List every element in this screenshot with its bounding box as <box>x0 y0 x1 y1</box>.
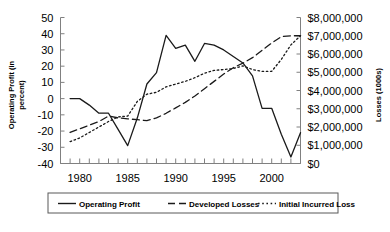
y-axis-right-tick-label: $7,000,000 <box>308 30 363 42</box>
legend-item-label: Developed Losses <box>189 200 260 209</box>
series-paths <box>70 35 300 157</box>
y-axis-left-tick-label: -10 <box>38 109 54 121</box>
y-axis-left-tick-labels: 50403020100-10-20-30-40 <box>38 12 54 170</box>
series-line-operating-profit <box>70 35 300 157</box>
y-axis-left-title: Operating Profit (in percent) <box>7 60 26 129</box>
y-axis-right-tick-label: $3,000,000 <box>308 103 363 115</box>
line-chart: 19801985199019952000 50403020100-10-20-3… <box>0 0 390 232</box>
y-axis-right-tick-label: $2,000,000 <box>308 121 363 133</box>
chart-legend: Operating ProfitDeveloped LossesInitial … <box>48 193 356 213</box>
legend-item-label: Initial Incurred Loss <box>279 200 356 209</box>
chart-container: 19801985199019952000 50403020100-10-20-3… <box>0 0 390 232</box>
y-axis-right-tick-label: $1,000,000 <box>308 139 363 151</box>
y-axis-left-tick-label: 0 <box>47 93 53 105</box>
y-axis-right-tick-label: $5,000,000 <box>308 66 363 78</box>
y-axis-left-ticks <box>61 18 65 164</box>
y-axis-left-tick-label: 30 <box>41 44 53 56</box>
x-axis-ticks <box>61 159 301 164</box>
y-axis-left-tick-label: 40 <box>41 28 53 40</box>
series-line-initial-incurred-loss <box>70 36 300 142</box>
y-axis-left-title-line1: Operating Profit (in <box>7 60 16 129</box>
y-axis-right-tick-labels: $8,000,000$7,000,000$6,000,000$5,000,000… <box>308 12 363 170</box>
y-axis-right-tick-label: $0 <box>308 158 320 170</box>
y-axis-left-tick-label: 20 <box>41 60 53 72</box>
x-axis-tick-label: 1985 <box>115 172 139 184</box>
y-axis-right-tick-label: $6,000,000 <box>308 48 363 60</box>
y-axis-left-tick-label: 10 <box>41 76 53 88</box>
legend-items: Operating ProfitDeveloped LossesInitial … <box>58 200 356 209</box>
series-line-developed-losses <box>70 36 300 133</box>
legend-item-label: Operating Profit <box>79 200 140 209</box>
x-axis-tick-label: 1990 <box>163 172 187 184</box>
y-axis-left-tick-label: -40 <box>38 158 54 170</box>
y-axis-right-tick-label: $8,000,000 <box>308 12 363 24</box>
x-axis-tick-labels: 19801985199019952000 <box>67 172 283 184</box>
y-axis-right-title: Losses (1000s) <box>374 68 383 122</box>
plot-frame <box>61 18 301 164</box>
y-axis-left-tick-label: 50 <box>41 12 53 24</box>
x-axis-tick-label: 1995 <box>211 172 235 184</box>
y-axis-left-tick-label: -20 <box>38 125 54 137</box>
x-axis-tick-label: 2000 <box>259 172 283 184</box>
y-axis-left-title-line2: percent) <box>17 80 26 110</box>
x-axis-tick-label: 1980 <box>67 172 91 184</box>
y-axis-left-tick-label: -30 <box>38 141 54 153</box>
y-axis-right-tick-label: $4,000,000 <box>308 85 363 97</box>
